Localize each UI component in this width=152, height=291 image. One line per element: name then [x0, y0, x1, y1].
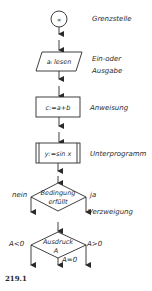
terminal-label: Grenzstelle [92, 15, 132, 23]
decision-symbol: Bedingung erfüllt [31, 183, 86, 211]
subroutine-symbol: y:=sin x [36, 143, 80, 163]
multi-branch-lt-label: A<0 [8, 240, 25, 248]
process-text: c:=a+b [46, 104, 71, 112]
multi-branch-symbol: Ausdruck A [31, 232, 86, 258]
terminal-symbol: ∝ [51, 11, 67, 27]
terminal-text: ∝ [57, 16, 62, 24]
multi-branch-text-line1: Ausdruck [42, 238, 73, 246]
flowchart-symbols-diagram: ∝ Grenzstelle aᵢ lesen Ein-oder Ausgabe … [0, 0, 152, 291]
decision-text-line1: Bedingung [40, 189, 75, 197]
multi-branch-text-line2: A [53, 247, 58, 255]
io-label-line1: Ein-oder [92, 55, 122, 63]
multi-branch-eq-label: A=0 [61, 256, 78, 264]
decision-no-label: nein [12, 191, 27, 199]
subroutine-text: y:=sin x [44, 150, 72, 158]
figure-caption: 219.1 [5, 274, 27, 283]
process-symbol: c:=a+b [36, 97, 80, 117]
io-text: aᵢ lesen [47, 58, 72, 66]
branch-group-label: Verzweigung [88, 208, 134, 216]
decision-text-line2: erfüllt [48, 198, 68, 206]
multi-branch-gt-label: A>0 [86, 240, 103, 248]
io-label-line2: Ausgabe [91, 67, 122, 75]
io-symbol: aᵢ lesen [36, 52, 82, 71]
subroutine-label: Unterprogramm [90, 150, 147, 158]
process-label: Anweisung [89, 104, 129, 112]
decision-yes-label: ja [89, 191, 96, 199]
